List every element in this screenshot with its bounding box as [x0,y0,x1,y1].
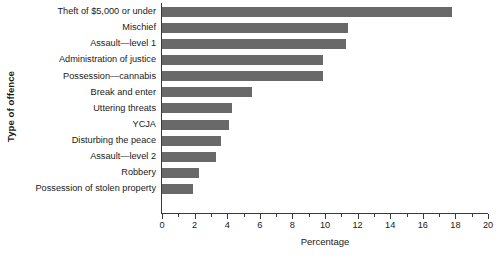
bar [162,152,216,162]
x-axis-tick-major [325,214,326,219]
category-label: Uttering threats [18,104,160,114]
x-axis-title: Percentage [162,236,488,247]
x-axis-tick-label: 4 [215,220,239,230]
category-label: Assault—level 2 [18,152,160,162]
bar-row [162,117,488,133]
x-axis-tick-major [292,214,293,219]
category-label: Disturbing the peace [18,136,160,146]
bar-row [162,84,488,100]
bar-row [162,165,488,181]
category-label: Possession of stolen property [18,184,160,194]
category-label-row: Theft of $5,000 or under [18,4,160,20]
bar [162,184,193,194]
x-axis-tick-label: 10 [313,220,337,230]
category-label: Administration of justice [18,55,160,65]
bar [162,168,199,178]
bar-row [162,181,488,197]
bar-row [162,52,488,68]
x-axis-tick-label: 0 [150,220,174,230]
bar-row [162,133,488,149]
category-label-row: Assault—level 2 [18,149,160,165]
x-axis-tick-minor [472,214,473,217]
bar [162,7,452,17]
x-axis-tick-minor [309,214,310,217]
x-axis-tick-label: 20 [476,220,500,230]
bar-row [162,149,488,165]
x-axis-tick-label: 6 [248,220,272,230]
category-label: YCJA [18,120,160,130]
category-label: Mischief [18,23,160,33]
x-axis-tick-major [455,214,456,219]
bar [162,71,323,81]
bar-row [162,68,488,84]
bar [162,103,232,113]
x-axis-tick-label: 12 [346,220,370,230]
x-axis-tick-major [227,214,228,219]
x-axis-tick-label: 14 [378,220,402,230]
bar [162,87,252,97]
bar-chart: Type of offence Theft of $5,000 or under… [0,0,500,258]
x-axis-tick-minor [439,214,440,217]
y-axis-line [161,3,162,214]
category-label: Assault—level 1 [18,39,160,49]
category-label: Robbery [18,168,160,178]
y-axis-title-text: Type of offence [5,71,16,142]
x-axis-tick-major [162,214,163,219]
x-axis-tick-label: 18 [443,220,467,230]
bar-row [162,36,488,52]
x-axis-tick-major [488,214,489,219]
category-label-row: Mischief [18,20,160,36]
x-axis-tick-major [195,214,196,219]
category-label-row: Robbery [18,165,160,181]
category-label: Possession—cannabis [18,72,160,82]
x-axis-tick-minor [341,214,342,217]
x-axis-tick-major [390,214,391,219]
category-label-row: Possession of stolen property [18,181,160,197]
category-label-row: Uttering threats [18,100,160,116]
category-label-row: Administration of justice [18,52,160,68]
category-label: Break and enter [18,88,160,98]
x-axis-tick-minor [276,214,277,217]
bar [162,39,346,49]
category-label-row: YCJA [18,117,160,133]
x-axis-tick-minor [374,214,375,217]
x-axis-tick-major [358,214,359,219]
x-axis-tick-label: 2 [183,220,207,230]
bar-row [162,4,488,20]
x-axis-tick-minor [244,214,245,217]
category-label: Theft of $5,000 or under [18,7,160,17]
category-label-row: Disturbing the peace [18,133,160,149]
y-axis-title: Type of offence [2,0,18,213]
category-label-column: Theft of $5,000 or underMischiefAssault—… [18,4,160,213]
x-axis-tick-minor [407,214,408,217]
x-axis-tick-minor [178,214,179,217]
x-axis-tick-label: 16 [411,220,435,230]
category-label-row: Possession—cannabis [18,68,160,84]
category-label-row: Assault—level 1 [18,36,160,52]
bar [162,55,323,65]
x-axis-tick-label: 8 [280,220,304,230]
category-label-row: Break and enter [18,84,160,100]
bar-row [162,100,488,116]
bar-row [162,20,488,36]
x-axis-tick-major [260,214,261,219]
bar [162,23,348,33]
bar [162,120,229,130]
plot-area [162,4,488,213]
x-axis-tick-minor [211,214,212,217]
x-axis-tick-major [423,214,424,219]
bar [162,136,221,146]
